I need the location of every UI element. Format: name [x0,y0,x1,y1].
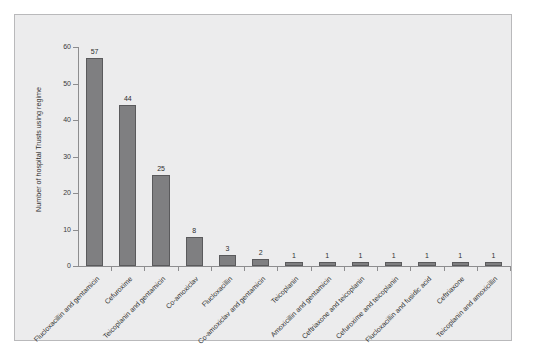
bar[interactable] [252,259,269,266]
x-axis-label: Flucloxacillin [161,275,233,347]
bar-value-label: 8 [180,227,208,234]
x-axis-label: Flucloxacillin and gentamicin [28,275,100,347]
bar[interactable] [219,255,236,266]
x-tick-mark [178,267,179,271]
bar-value-label: 1 [346,252,374,259]
x-axis-label: Ceftriaxone [393,275,465,347]
y-tick-label: 50 [27,80,71,87]
plot-area [78,47,510,266]
bar-value-label: 1 [413,252,441,259]
y-tick-mark [73,266,78,267]
x-tick-mark [144,267,145,271]
y-tick-label-wrap: 0 [23,266,71,267]
y-tick-label: 10 [27,226,71,233]
x-tick-mark [477,267,478,271]
y-tick-label-wrap: 40 [23,120,71,121]
bar[interactable] [385,262,402,266]
x-axis-label: Flucloxacillin and fusidic acid [360,275,432,347]
bar-value-label: 1 [446,252,474,259]
bar-value-label: 1 [280,252,308,259]
figure-canvas: Number of hospital Trusts using regime 0… [0,0,540,357]
y-tick-label-wrap: 30 [23,157,71,158]
x-axis-label: Teicoplanin and gentamicin [94,275,166,347]
x-tick-mark [510,267,511,271]
y-tick-label-wrap: 50 [23,84,71,85]
x-tick-mark [444,267,445,271]
bar-value-label: 1 [380,252,408,259]
chart-panel: Number of hospital Trusts using regime 0… [14,14,512,341]
bar[interactable] [485,262,502,266]
y-tick-label: 40 [27,116,71,123]
x-tick-mark [410,267,411,271]
x-axis-label: Co-amoxiclav and gentamicin [194,275,266,347]
x-tick-mark [111,267,112,271]
x-tick-mark [211,267,212,271]
x-axis-label: Teicoplanin and amoxicillin [427,275,499,347]
x-tick-mark [344,267,345,271]
x-axis-label: Cefuroxime [61,275,133,347]
y-tick-label-wrap: 10 [23,230,71,231]
bar[interactable] [352,262,369,266]
y-tick-label: 0 [27,262,71,269]
bar[interactable] [186,237,203,266]
bar-value-label: 2 [247,249,275,256]
x-axis-label: Teicoplanin [227,275,299,347]
bar-value-label: 25 [147,165,175,172]
bar-value-label: 3 [214,245,242,252]
x-axis-label: Co-amoxiclav [128,275,200,347]
bar[interactable] [119,105,136,266]
bar[interactable] [285,262,302,266]
bar-value-label: 57 [81,48,109,55]
x-tick-mark [244,267,245,271]
x-axis-line [78,266,511,267]
y-tick-label: 60 [27,43,71,50]
y-tick-label-wrap: 20 [23,193,71,194]
x-tick-mark [311,267,312,271]
bar[interactable] [152,175,169,266]
x-tick-mark [277,267,278,271]
bar-value-label: 1 [313,252,341,259]
y-tick-label-wrap: 60 [23,47,71,48]
bar[interactable] [418,262,435,266]
y-tick-label: 30 [27,153,71,160]
bar-value-label: 44 [114,95,142,102]
y-tick-label: 20 [27,189,71,196]
bar-value-label: 1 [479,252,507,259]
x-axis-label: Ceftriaxone and teicoplanin [294,275,366,347]
x-axis-label: Cefuroxime and teicoplanin [327,275,399,347]
x-axis-label: Amoxicillin and gentamicin [261,275,333,347]
x-tick-mark [377,267,378,271]
bar[interactable] [86,58,103,266]
bar[interactable] [452,262,469,266]
bar[interactable] [319,262,336,266]
